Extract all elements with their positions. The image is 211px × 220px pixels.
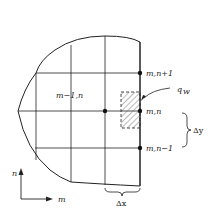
arrowhead-icon [141, 95, 146, 101]
label-heat-flux: q [177, 85, 182, 94]
label-node-top: m,n+1 [146, 69, 173, 78]
node-m-n-minus-1 [138, 146, 142, 150]
node-m-minus-1-n [103, 109, 107, 113]
delta-x-brace [105, 188, 140, 196]
label-delta-y: Δy [193, 126, 204, 135]
axis-n-arrowhead-icon [19, 168, 24, 175]
grid-diagram: m,n+1 m,n m,n−1 m−1,n q w Δy Δx n m [0, 0, 211, 220]
label-delta-x: Δx [116, 199, 127, 208]
label-axis-m: m [58, 195, 66, 204]
label-node-center: m,n [146, 107, 161, 116]
control-volume-hatched [121, 92, 140, 128]
label-heat-flux-sub: w [183, 87, 190, 96]
node-m-n [138, 109, 142, 113]
label-node-bottom: m,n−1 [146, 144, 173, 153]
delta-y-brace [182, 113, 191, 147]
label-node-left: m−1,n [56, 91, 83, 100]
node-m-n-plus-1 [138, 71, 142, 75]
label-axis-n: n [12, 169, 17, 178]
axis-m-arrowhead-icon [46, 197, 53, 202]
heat-flux-arrow [144, 88, 170, 98]
